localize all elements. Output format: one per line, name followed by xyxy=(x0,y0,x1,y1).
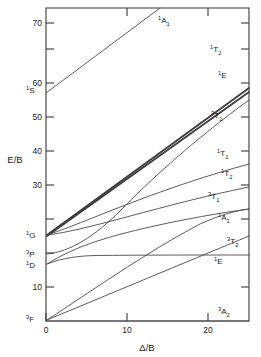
term-label-3T1-lower: 3T1 xyxy=(208,191,219,203)
svg-text:1D: 1D xyxy=(26,260,35,271)
term-label-1T2: 1T2 xyxy=(210,44,221,56)
curve-term-labels: 1A1 1T2 1E 3T1 1T1 1T2 3T1 1A1 3T2 1E 3A… xyxy=(158,15,238,318)
y-tick-label-40: 40 xyxy=(33,146,43,156)
svg-text:1G: 1G xyxy=(26,230,35,241)
origin-label-1G: 1G xyxy=(26,230,35,241)
svg-text:1S: 1S xyxy=(26,85,35,96)
origin-label-3P: 3P xyxy=(26,249,35,260)
y-tick-label-10: 10 xyxy=(33,282,43,292)
x-tick-label-0: 0 xyxy=(44,325,49,335)
term-label-3T2: 3T2 xyxy=(227,236,238,248)
y-axis-title: E/B xyxy=(7,154,22,165)
y-tick-label-70: 70 xyxy=(33,18,43,28)
term-label-3A2: 3A2 xyxy=(218,306,230,318)
x-axis-ticks xyxy=(46,8,208,321)
tanabe-sugano-figure: 70 60 50 40 30 10 E/B 0 10 20 Δ/B xyxy=(0,0,261,357)
origin-label-1D: 1D xyxy=(26,260,35,271)
y-tick-label-30: 30 xyxy=(33,180,43,190)
y-axis-ticks xyxy=(46,23,249,287)
curve-1A1-from-1S xyxy=(46,8,160,93)
origin-1G-letter: G xyxy=(29,231,35,240)
term-label-1E-lower: 1E xyxy=(214,256,223,267)
origin-label-1S: 1S xyxy=(26,85,35,96)
origin-3P-letter: P xyxy=(29,250,34,259)
term-label-1E-upper: 1E xyxy=(218,70,227,81)
plot-svg: 70 60 50 40 30 10 E/B 0 10 20 Δ/B xyxy=(0,0,261,357)
origin-3F-letter: F xyxy=(29,315,34,324)
term-label-1A1-top: 1A1 xyxy=(158,15,170,27)
x-tick-label-10: 10 xyxy=(122,325,132,335)
x-tick-label-20: 20 xyxy=(203,325,213,335)
x-axis-tick-labels: 0 10 20 xyxy=(44,325,213,335)
origin-label-3F: 3F xyxy=(26,314,34,325)
origin-1S-letter: S xyxy=(29,86,34,95)
origin-1D-letter: D xyxy=(29,261,35,270)
y-tick-label-50: 50 xyxy=(33,112,43,122)
x-axis-title: Δ/B xyxy=(139,342,154,353)
svg-text:3P: 3P xyxy=(26,249,35,260)
svg-text:3F: 3F xyxy=(26,314,34,325)
curve-3T1-upper xyxy=(47,100,249,254)
term-label-1T1: 1T1 xyxy=(217,148,228,160)
